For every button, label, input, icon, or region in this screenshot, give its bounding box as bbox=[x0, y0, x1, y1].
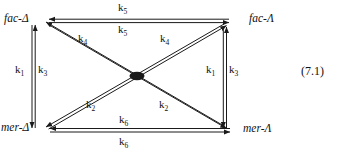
edge-bottom-horizontal bbox=[50, 129, 230, 133]
rate-label-k3-right-edge: k3 bbox=[229, 64, 238, 75]
rate-subscript: 6 bbox=[125, 141, 129, 150]
node-label-fac-delta: fac-Δ bbox=[4, 13, 29, 25]
rate-subscript: 5 bbox=[124, 7, 128, 16]
rate-label-k5-below-top-edge: k5 bbox=[118, 24, 127, 35]
node-label-fac-lambda: fac-Λ bbox=[249, 13, 274, 25]
rate-label-k4-upper-right-diagonal: k4 bbox=[160, 33, 169, 44]
rate-label-k2-lower-left-diagonal: k2 bbox=[86, 99, 95, 110]
equation-number: (7.1) bbox=[301, 65, 324, 77]
reaction-scheme-graphic bbox=[0, 0, 338, 151]
rate-subscript: 1 bbox=[21, 69, 25, 78]
rate-label-k6-below-bottom-edge: k6 bbox=[119, 136, 128, 147]
rate-subscript: 4 bbox=[166, 38, 170, 47]
edge-right-vertical bbox=[223, 27, 226, 128]
rate-subscript: 5 bbox=[124, 29, 128, 38]
figure-container: fac-Δ fac-Λ mer-Δ mer-Λ k5 k5 k6 k6 k1 k… bbox=[0, 0, 338, 151]
rate-label-k3-left-edge: k3 bbox=[38, 64, 47, 75]
rate-label-k2-lower-right-diagonal: k2 bbox=[159, 99, 168, 110]
rate-label-k1-left-edge: k1 bbox=[15, 64, 24, 75]
rate-subscript: 3 bbox=[235, 69, 239, 78]
node-label-mer-delta: mer-Δ bbox=[1, 122, 29, 134]
rate-label-k5-above-top-edge: k5 bbox=[118, 2, 127, 13]
rate-subscript: 3 bbox=[44, 69, 48, 78]
rate-label-k4-upper-left-diagonal: k4 bbox=[78, 33, 87, 44]
edge-top-horizontal bbox=[49, 19, 229, 22]
rate-label-k1-right-edge: k1 bbox=[206, 64, 215, 75]
rate-subscript: 1 bbox=[212, 69, 216, 78]
rate-label-k6-above-bottom-edge: k6 bbox=[119, 114, 128, 125]
edge-left-vertical bbox=[32, 25, 35, 128]
diagonal-crossing-point bbox=[130, 72, 145, 80]
rate-subscript: 2 bbox=[92, 104, 96, 113]
rate-subscript: 6 bbox=[125, 119, 129, 128]
node-label-mer-lambda: mer-Λ bbox=[243, 123, 271, 135]
rate-subscript: 4 bbox=[84, 38, 88, 47]
rate-subscript: 2 bbox=[165, 104, 169, 113]
